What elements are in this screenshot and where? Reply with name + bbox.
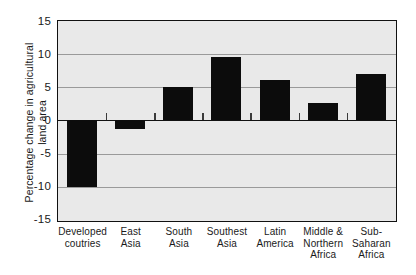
y-tick-label: -10 xyxy=(21,181,51,193)
y-tick-label: 5 xyxy=(21,82,51,94)
gridline xyxy=(58,154,396,155)
minor-tick xyxy=(106,113,107,120)
minor-tick xyxy=(202,113,203,120)
bar xyxy=(308,103,338,120)
bar xyxy=(356,74,386,120)
plot-area xyxy=(57,20,397,222)
y-tick-label: -5 xyxy=(21,148,51,160)
minor-tick xyxy=(299,113,300,120)
bar xyxy=(115,120,145,129)
bar-chart-figure: Percentage change in agricultural land a… xyxy=(0,0,416,275)
bar xyxy=(163,87,193,120)
bar xyxy=(211,57,241,120)
gridline xyxy=(58,54,396,55)
y-tick-label: -15 xyxy=(21,214,51,226)
minor-tick xyxy=(347,113,348,120)
bar xyxy=(260,80,290,120)
gridline xyxy=(58,187,396,188)
y-tick-label: 0 xyxy=(21,115,51,127)
y-tick-label: 15 xyxy=(21,16,51,28)
y-tick-label: 10 xyxy=(21,49,51,61)
minor-tick xyxy=(154,113,155,120)
minor-tick xyxy=(250,113,251,120)
x-tick-label: Sub- Saharan Africa xyxy=(340,226,402,261)
bar xyxy=(67,120,97,186)
